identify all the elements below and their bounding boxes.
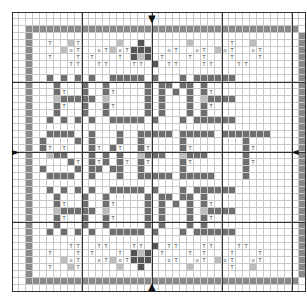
stitch-cell [285,236,292,243]
stitch-cell [75,278,82,285]
stitch-cell [138,159,145,166]
stitch-cell [173,180,180,187]
stitch-cell [138,12,145,19]
stitch-cell [96,124,103,131]
stitch-cell [110,61,117,68]
stitch-cell [264,47,271,54]
stitch-cell [33,131,40,138]
stitch-cell [33,47,40,54]
stitch-cell [124,89,131,96]
stitch-cell [257,152,264,159]
stitch-cell [89,19,96,26]
stitch-cell [215,208,222,215]
stitch-cell [201,208,208,215]
stitch-cell: T [75,61,82,68]
stitch-cell [257,75,264,82]
stitch-cell [61,12,68,19]
stitch-cell [61,194,68,201]
stitch-cell [222,243,229,250]
stitch-cell [68,222,75,229]
stitch-cell [40,229,47,236]
stitch-cell [257,187,264,194]
stitch-cell: T [159,250,166,257]
stitch-cell [82,285,89,292]
stitch-cell [138,40,145,47]
stitch-cell [215,138,222,145]
stitch-cell [299,110,306,117]
stitch-cell [19,12,26,19]
stitch-cell [222,187,229,194]
stitch-cell [33,180,40,187]
stitch-cell [19,96,26,103]
stitch-cell [54,159,61,166]
stitch-cell [61,229,68,236]
stitch-cell [89,131,96,138]
stitch-cell [152,229,159,236]
stitch-cell [61,236,68,243]
stitch-cell [19,26,26,33]
stitch-cell [110,243,117,250]
stitch-cell [201,103,208,110]
stitch-cell [201,68,208,75]
stitch-cell [68,264,75,271]
stitch-cell [208,68,215,75]
stitch-cell [180,54,187,61]
stitch-cell [26,68,33,75]
stitch-cell [271,271,278,278]
stitch-cell: T [173,61,180,68]
stitch-cell [12,222,19,229]
stitch-cell [152,54,159,61]
stitch-cell [299,54,306,61]
stitch-cell: T [47,264,54,271]
stitch-cell [33,82,40,89]
stitch-cell [243,159,250,166]
stitch-cell [145,187,152,194]
stitch-cell [159,152,166,159]
stitch-cell [194,264,201,271]
stitch-cell [173,82,180,89]
stitch-cell: T [117,54,124,61]
stitch-cell [82,236,89,243]
stitch-cell [145,152,152,159]
stitch-cell [299,194,306,201]
stitch-cell [285,131,292,138]
stitch-cell [243,180,250,187]
stitch-cell [187,26,194,33]
stitch-cell [103,89,110,96]
stitch-cell [173,26,180,33]
stitch-cell [19,194,26,201]
stitch-cell [166,208,173,215]
stitch-cell [145,208,152,215]
stitch-cell [264,54,271,61]
stitch-cell [194,131,201,138]
stitch-cell [138,82,145,89]
stitch-cell [103,264,110,271]
stitch-cell [82,68,89,75]
stitch-cell [173,40,180,47]
stitch-cell [278,61,285,68]
stitch-cell [54,33,61,40]
stitch-cell [264,103,271,110]
stitch-cell [285,138,292,145]
stitch-cell [26,243,33,250]
stitch-cell [61,33,68,40]
stitch-cell [299,138,306,145]
stitch-cell [103,19,110,26]
stitch-cell [173,68,180,75]
stitch-cell [96,82,103,89]
stitch-cell [124,152,131,159]
stitch-cell [250,152,257,159]
stitch-cell [222,215,229,222]
stitch-cell [12,194,19,201]
stitch-cell [12,40,19,47]
stitch-cell [278,124,285,131]
stitch-cell [278,222,285,229]
stitch-cell [138,117,145,124]
stitch-cell [215,75,222,82]
stitch-cell [243,215,250,222]
stitch-cell [40,82,47,89]
stitch-cell [299,47,306,54]
stitch-cell [47,61,54,68]
stitch-cell [54,187,61,194]
stitch-cell [103,26,110,33]
